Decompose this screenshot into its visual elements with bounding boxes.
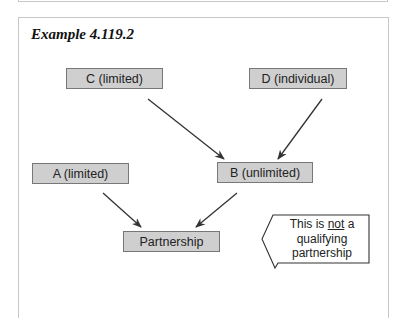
node-d: D (individual) bbox=[249, 68, 347, 89]
callout-line1-pre: This is bbox=[290, 217, 328, 231]
arrow-c-to-b bbox=[148, 99, 224, 159]
callout-emphasis: not bbox=[328, 217, 345, 231]
arrow-a-to-partnership bbox=[103, 193, 141, 227]
node-a: A (limited) bbox=[32, 163, 129, 184]
arrow-b-to-partnership bbox=[196, 193, 237, 227]
callout-line3: partnership bbox=[276, 246, 368, 261]
arrow-d-to-b bbox=[278, 99, 322, 159]
callout-text: This is not a qualifying partnership bbox=[276, 217, 368, 261]
node-partnership: Partnership bbox=[123, 231, 220, 252]
callout-line1-post: a bbox=[344, 217, 354, 231]
node-b: B (unlimited) bbox=[217, 162, 313, 183]
callout-line2: qualifying bbox=[276, 232, 368, 247]
node-c: C (limited) bbox=[66, 68, 163, 89]
